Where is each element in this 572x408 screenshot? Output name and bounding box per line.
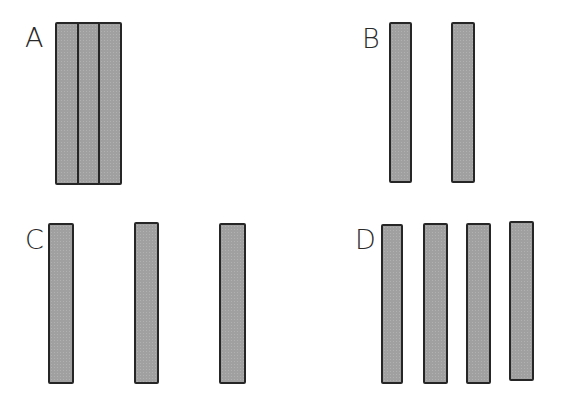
panel-label-d: D bbox=[355, 226, 376, 253]
panel-label-c: C bbox=[25, 226, 44, 253]
bar bbox=[98, 22, 122, 185]
bar bbox=[423, 223, 448, 384]
bar bbox=[134, 222, 159, 384]
bar bbox=[451, 22, 475, 183]
bar bbox=[381, 224, 403, 384]
bar bbox=[48, 223, 74, 384]
panel-label-b: B bbox=[362, 25, 380, 52]
bar bbox=[466, 223, 491, 384]
bar-block-adjacent bbox=[55, 22, 122, 185]
bar bbox=[219, 223, 246, 384]
panel-label-a: A bbox=[25, 24, 43, 51]
bar bbox=[389, 22, 412, 183]
bar-spacing-diagram: A B C D bbox=[0, 0, 572, 408]
bar bbox=[509, 221, 534, 381]
